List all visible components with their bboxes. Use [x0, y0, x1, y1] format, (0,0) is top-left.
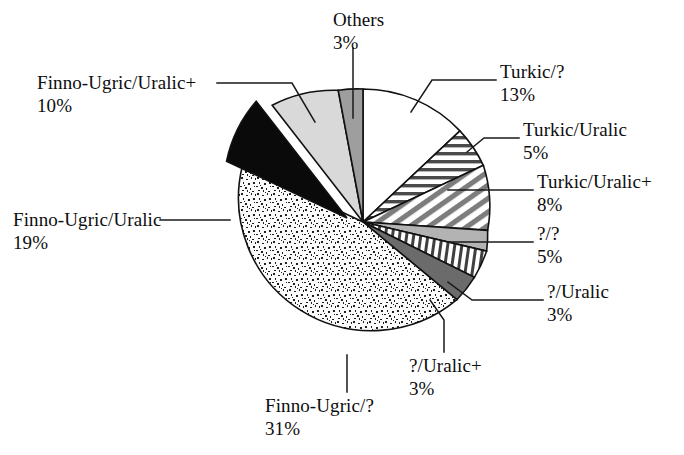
label-finno-ugric-uralic-plus-name: Finno-Ugric/Uralic+ — [37, 72, 196, 93]
label-q-q-name: ?/? — [537, 223, 559, 244]
label-turkic-uralic-plus-name: Turkic/Uralic+ — [537, 171, 652, 192]
label-finno-ugric-uralic-name: Finno-Ugric/Uralic — [13, 209, 161, 230]
label-q-q-pct: 5% — [537, 245, 563, 268]
pie-chart-figure: Others 3% Turkic/? 13% Turkic/Uralic 5% … — [0, 0, 684, 455]
label-q-uralic: ?/Uralic 3% — [547, 280, 609, 326]
label-finno-ugric-q: Finno-Ugric/? 31% — [265, 394, 374, 440]
label-finno-ugric-q-pct: 31% — [265, 417, 374, 440]
label-turkic-uralic-pct: 5% — [523, 141, 627, 164]
label-others: Others 3% — [333, 8, 384, 54]
label-q-q: ?/? 5% — [537, 222, 563, 268]
label-turkic-uralic-plus: Turkic/Uralic+ 8% — [537, 170, 652, 216]
label-turkic-uralic: Turkic/Uralic 5% — [523, 118, 627, 164]
label-others-name: Others — [333, 9, 384, 30]
label-finno-ugric-uralic: Finno-Ugric/Uralic 19% — [13, 208, 161, 254]
label-q-uralic-plus: ?/Uralic+ 3% — [409, 354, 482, 400]
label-turkic-q-name: Turkic/? — [500, 61, 565, 82]
label-q-uralic-name: ?/Uralic — [547, 281, 609, 302]
label-turkic-q-pct: 13% — [500, 83, 565, 106]
label-others-pct: 3% — [333, 31, 384, 54]
label-finno-ugric-uralic-plus-pct: 10% — [37, 94, 196, 117]
label-finno-ugric-uralic-plus: Finno-Ugric/Uralic+ 10% — [37, 71, 196, 117]
label-q-uralic-plus-pct: 3% — [409, 377, 482, 400]
label-turkic-uralic-plus-pct: 8% — [537, 193, 652, 216]
label-q-uralic-plus-name: ?/Uralic+ — [409, 355, 482, 376]
label-q-uralic-pct: 3% — [547, 303, 609, 326]
label-finno-ugric-uralic-pct: 19% — [13, 231, 161, 254]
label-finno-ugric-q-name: Finno-Ugric/? — [265, 395, 374, 416]
label-turkic-uralic-name: Turkic/Uralic — [523, 119, 627, 140]
label-turkic-q: Turkic/? 13% — [500, 60, 565, 106]
